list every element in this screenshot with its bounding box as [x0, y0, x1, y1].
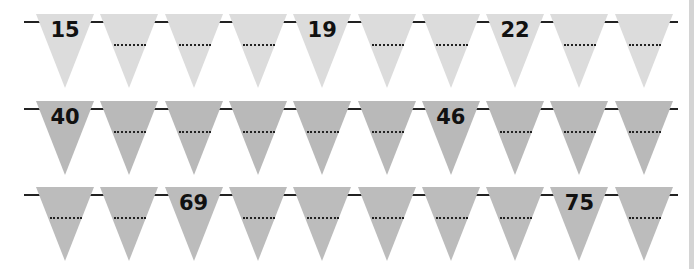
- answer-blank[interactable]: [114, 44, 146, 46]
- answer-blank[interactable]: [436, 217, 468, 219]
- answer-blank[interactable]: [243, 131, 275, 133]
- flag[interactable]: [486, 187, 544, 261]
- flag[interactable]: [100, 14, 158, 88]
- flag-number: 69: [165, 191, 223, 215]
- flag[interactable]: [229, 14, 287, 88]
- flag-shape: [229, 101, 287, 175]
- flag[interactable]: [615, 187, 673, 261]
- flag-number: 75: [550, 191, 608, 215]
- answer-blank[interactable]: [50, 217, 82, 219]
- flag[interactable]: [358, 187, 416, 261]
- answer-blank[interactable]: [629, 44, 661, 46]
- bunting-row-3: 6975: [0, 187, 680, 267]
- flag-shape: [358, 14, 416, 88]
- answer-blank[interactable]: [179, 44, 211, 46]
- flag-shape: [229, 187, 287, 261]
- flag: 22: [486, 14, 544, 88]
- flag: 69: [165, 187, 223, 261]
- flag[interactable]: [422, 14, 480, 88]
- flag[interactable]: [550, 14, 608, 88]
- flag-shape: [36, 187, 94, 261]
- flag[interactable]: [615, 101, 673, 175]
- flag-shape: [615, 101, 673, 175]
- flag-shape: [229, 14, 287, 88]
- answer-blank[interactable]: [629, 217, 661, 219]
- flag[interactable]: [358, 14, 416, 88]
- flag-shape: [165, 101, 223, 175]
- page-edge: [689, 0, 694, 269]
- answer-blank[interactable]: [307, 131, 339, 133]
- flag-shape: [486, 101, 544, 175]
- flag-shape: [615, 14, 673, 88]
- flag: 40: [36, 101, 94, 175]
- flag-shape: [165, 14, 223, 88]
- flag[interactable]: [550, 101, 608, 175]
- flag-shape: [486, 187, 544, 261]
- flag-number: 15: [36, 18, 94, 42]
- answer-blank[interactable]: [114, 217, 146, 219]
- flag[interactable]: [36, 187, 94, 261]
- flag-number: 40: [36, 105, 94, 129]
- flag-shape: [422, 14, 480, 88]
- answer-blank[interactable]: [243, 44, 275, 46]
- flag[interactable]: [165, 101, 223, 175]
- answer-blank[interactable]: [500, 217, 532, 219]
- answer-blank[interactable]: [114, 131, 146, 133]
- flag-shape: [358, 101, 416, 175]
- flag: 46: [422, 101, 480, 175]
- flag-number: 46: [422, 105, 480, 129]
- flag-shape: [100, 187, 158, 261]
- flag[interactable]: [165, 14, 223, 88]
- flag[interactable]: [229, 101, 287, 175]
- flag-shape: [615, 187, 673, 261]
- answer-blank[interactable]: [372, 131, 404, 133]
- answer-blank[interactable]: [243, 217, 275, 219]
- answer-blank[interactable]: [629, 131, 661, 133]
- flag-number: 19: [293, 18, 351, 42]
- flag[interactable]: [293, 101, 351, 175]
- answer-blank[interactable]: [179, 131, 211, 133]
- answer-blank[interactable]: [372, 217, 404, 219]
- flag-shape: [550, 14, 608, 88]
- answer-blank[interactable]: [500, 131, 532, 133]
- flag: 19: [293, 14, 351, 88]
- flag-shape: [293, 101, 351, 175]
- bunting-row-1: 151922: [0, 14, 680, 94]
- answer-blank[interactable]: [372, 44, 404, 46]
- flag[interactable]: [615, 14, 673, 88]
- flag[interactable]: [486, 101, 544, 175]
- flag-shape: [100, 101, 158, 175]
- flag[interactable]: [293, 187, 351, 261]
- flag-shape: [293, 187, 351, 261]
- flag-number: 22: [486, 18, 544, 42]
- bunting-row-2: 4046: [0, 101, 680, 181]
- flag-shape: [358, 187, 416, 261]
- flag: 75: [550, 187, 608, 261]
- flag: 15: [36, 14, 94, 88]
- flag[interactable]: [229, 187, 287, 261]
- flag-shape: [550, 101, 608, 175]
- flag-shape: [100, 14, 158, 88]
- answer-blank[interactable]: [307, 217, 339, 219]
- flag[interactable]: [358, 101, 416, 175]
- answer-blank[interactable]: [436, 44, 468, 46]
- flag-shape: [422, 187, 480, 261]
- flag[interactable]: [100, 187, 158, 261]
- answer-blank[interactable]: [564, 131, 596, 133]
- flag[interactable]: [100, 101, 158, 175]
- flag[interactable]: [422, 187, 480, 261]
- answer-blank[interactable]: [564, 44, 596, 46]
